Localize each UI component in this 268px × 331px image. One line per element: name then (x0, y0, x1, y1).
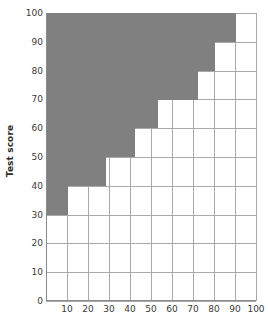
cumulative-bar-chart: Test score 0102030405060708090100 102030… (0, 0, 268, 331)
x-axis-tick-labels: 102030405060708090100 (0, 0, 268, 331)
x-tick-label: 100 (241, 305, 268, 314)
